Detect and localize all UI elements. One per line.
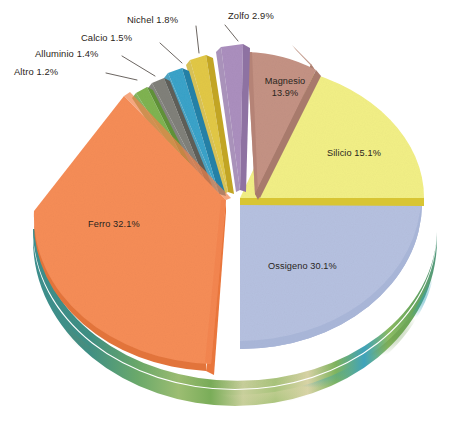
callout-label-nichel: Nichel 1.8% xyxy=(127,14,178,25)
callout-label-zolfo: Zolfo 2.9% xyxy=(228,10,274,21)
pie-chart-svg xyxy=(0,0,460,423)
leader-line-altro xyxy=(106,73,137,80)
leader-line-zolfo xyxy=(225,25,238,41)
leader-line-alluminio xyxy=(122,56,155,76)
callout-label-altro: Altro 1.2% xyxy=(14,66,58,77)
leader-line-nichel xyxy=(196,26,199,53)
callout-label-calcio: Calcio 1.5% xyxy=(81,32,132,43)
pie-chart-figure: Altro 1.2% Alluminio 1.4% Calcio 1.5% Ni… xyxy=(0,0,460,423)
leader-line-calcio xyxy=(160,43,182,63)
callout-label-alluminio: Alluminio 1.4% xyxy=(35,48,98,59)
